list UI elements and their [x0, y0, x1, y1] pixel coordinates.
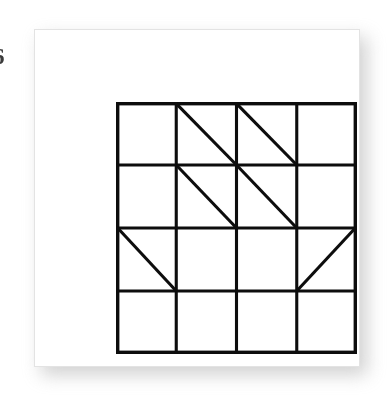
grid-svg — [116, 102, 357, 354]
cell-r2c2-diagonal-main — [176, 165, 236, 228]
grid-figure — [116, 102, 357, 354]
cell-r3c1-diagonal-main — [118, 228, 177, 291]
cell-r1c3-diagonal-main — [237, 104, 297, 165]
figure-canvas: 6 — [0, 0, 391, 396]
cell-r2c3-diagonal-main — [237, 165, 297, 228]
cell-r3c4-diagonal-anti — [297, 228, 356, 291]
figure-card — [34, 29, 360, 367]
edge-page-label: 6 — [0, 44, 7, 70]
cell-r1c2-diagonal-main — [176, 104, 236, 165]
